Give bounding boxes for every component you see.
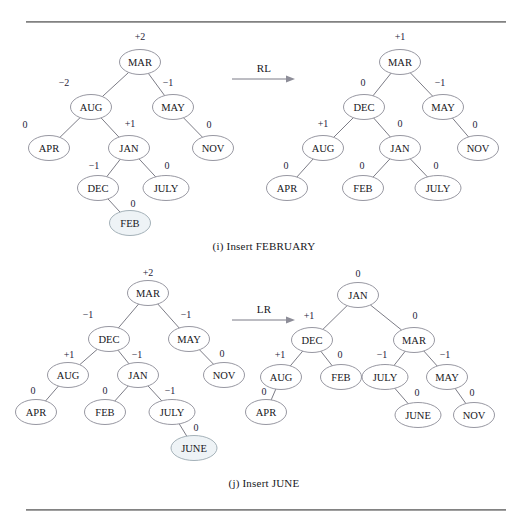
figure-caption-j: (j) Insert JUNE (0, 477, 528, 489)
balance-factor-mar: 0 (413, 310, 418, 321)
tree-node-aug: AUG (261, 365, 302, 390)
tree-node-feb: FEB (321, 365, 362, 390)
avl-tree-after-insert-june: JAN0DEC+1MAR0AUG+1FEB0JULY−1MAY−1APR0JUN… (0, 0, 528, 480)
balance-factor-nov: 0 (470, 387, 475, 398)
balance-factor-july: −1 (377, 349, 388, 360)
tree-edge (394, 351, 405, 365)
node-label: FEB (331, 372, 350, 383)
balance-factor-dec: +1 (304, 310, 315, 321)
tree-node-dec: DEC (292, 328, 333, 353)
node-label: NOV (463, 410, 486, 421)
tree-node-nov: NOV (454, 403, 495, 428)
tree-edge (370, 305, 401, 330)
tree-edge (455, 388, 466, 403)
tree-edge (321, 351, 332, 365)
node-label: DEC (302, 335, 323, 346)
node-label: JAN (348, 290, 368, 301)
node-label: JUNE (405, 410, 431, 421)
horizontal-rule-bottom (26, 509, 506, 511)
balance-factor-feb: 0 (338, 349, 343, 360)
tree-edge (323, 306, 347, 330)
balance-factor-apr: 0 (262, 386, 267, 397)
node-label: MAY (435, 372, 459, 383)
balance-factor-jan: 0 (356, 268, 361, 279)
tree-edge (290, 351, 302, 366)
figure-page: MAR+2AUG−2MAY−1APR0JAN+1NOV0DEC−1JULY0FE… (0, 0, 528, 517)
tree-edge (395, 388, 408, 403)
tree-edge (424, 351, 437, 366)
balance-factor-may: −1 (440, 349, 451, 360)
balance-factor-aug: +1 (275, 349, 286, 360)
node-label: MAR (402, 335, 426, 346)
node-label: AUG (270, 372, 293, 383)
tree-node-july: JULY (362, 365, 408, 390)
tree-node-jan: JAN (338, 283, 379, 308)
node-label: JULY (373, 372, 398, 383)
tree-edge (271, 389, 276, 400)
tree-node-june: JUNE (395, 403, 441, 428)
balance-factor-june: 0 (415, 387, 420, 398)
tree-node-apr: APR (246, 400, 287, 425)
tree-node-mar: MAR (394, 328, 435, 353)
tree-node-may: MAY (427, 365, 468, 390)
node-label: APR (256, 407, 276, 418)
